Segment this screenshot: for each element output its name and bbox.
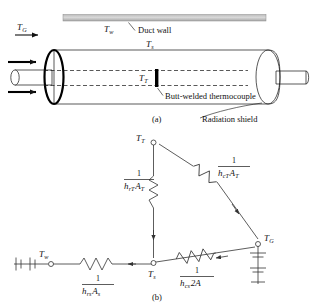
- shield-right-cap: [256, 50, 280, 104]
- wire-shield-to-gas: [156, 247, 255, 262]
- resistance-label-convection-thermocouple: 1 hcTAT: [218, 156, 250, 179]
- shield-temp-label-a: Ts: [146, 39, 154, 50]
- shield-node: [151, 261, 156, 266]
- panel-b: Tw Ts TT TG 1: [14, 133, 274, 302]
- current-arrows: [128, 204, 239, 264]
- svg-text:1: 1: [137, 169, 141, 178]
- wall-node: [49, 262, 54, 267]
- gas-ground-symbol: [250, 246, 266, 284]
- thermocouple-node: [151, 140, 156, 145]
- thermocouple-leader: [158, 88, 164, 96]
- radiation-shield-annotation: Radiation shield: [202, 114, 258, 124]
- duct-wall-leader: [129, 23, 136, 31]
- thermocouple-annotation: Butt-welded thermocouple: [165, 91, 256, 101]
- thermocouple-temp-label-a: TT: [139, 73, 148, 84]
- resistance-label-convection-shield: 1 hcs2A: [180, 266, 214, 289]
- gas-temp-label-a: TG: [17, 22, 27, 33]
- shielded-thermocouple-figure: Tw Duct wall TG: [0, 0, 317, 308]
- resistor-radiation-shield-to-wall: [80, 258, 116, 270]
- support-tube-left: [11, 70, 52, 85]
- svg-text:1: 1: [232, 156, 236, 165]
- wall-ground-symbol: [14, 258, 48, 271]
- duct-wall-annotation: Duct wall: [138, 25, 172, 35]
- wire-resistor-to-gas-diag: [217, 182, 258, 239]
- svg-text:hrsAs: hrsAs: [82, 286, 101, 297]
- shield-node-label: Ts: [148, 269, 156, 280]
- gas-node: [256, 242, 261, 247]
- duct-wall-bar: [63, 15, 266, 22]
- thermocouple-junction: [155, 69, 158, 87]
- svg-text:1: 1: [96, 274, 100, 283]
- wall-temp-label: Tw: [104, 24, 114, 35]
- svg-text:hcs2A: hcs2A: [180, 278, 201, 289]
- resistance-label-radiation-shield: 1 hrsAs: [82, 274, 114, 297]
- panel-a: Tw Duct wall TG: [8, 15, 309, 125]
- panel-a-caption: (a): [152, 114, 162, 124]
- gas-node-label: TG: [264, 233, 274, 244]
- resistor-convection-gas-to-thermocouple: [191, 162, 220, 186]
- thermocouple-node-label: TT: [136, 133, 145, 144]
- svg-text:hrTAT: hrTAT: [124, 181, 145, 192]
- panel-b-caption: (b): [152, 292, 162, 302]
- svg-text:hcTAT: hcTAT: [218, 168, 239, 179]
- support-tube-right: [276, 71, 309, 84]
- resistor-radiation-shield-to-thermocouple: [149, 176, 158, 208]
- wall-node-label: Tw: [39, 249, 49, 260]
- svg-text:1: 1: [195, 266, 199, 275]
- wire-thermocouple-to-gas: [159, 144, 193, 166]
